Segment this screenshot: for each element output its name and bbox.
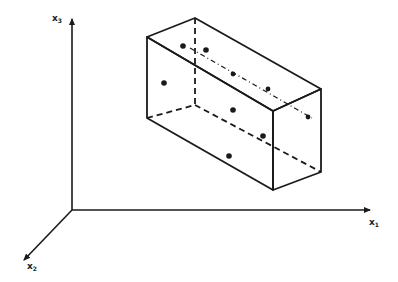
box-hidden-edges [147, 18, 321, 172]
box-inner-diagonal-line [190, 48, 312, 118]
data-point [260, 133, 266, 139]
data-point [230, 107, 236, 113]
box-visible-edges [147, 18, 321, 190]
hidden-edge-bottom-left [147, 105, 195, 118]
x2-axis-label: x2 [27, 262, 37, 272]
box-top-face [147, 18, 321, 111]
data-point [226, 153, 232, 159]
data-points [161, 43, 310, 159]
data-point [266, 87, 271, 92]
box-right-face [273, 89, 321, 190]
axes [24, 19, 370, 260]
x2-axis [24, 210, 72, 260]
data-point [161, 80, 167, 86]
box-front-face [147, 37, 273, 190]
data-point [306, 115, 311, 120]
data-point [203, 47, 209, 53]
hidden-edge-bottom-back [195, 105, 321, 172]
data-point [180, 43, 186, 49]
data-point [231, 72, 236, 77]
diagram-canvas [0, 0, 398, 282]
x1-axis-label: x1 [369, 218, 379, 228]
x3-axis-label: x3 [52, 14, 62, 24]
